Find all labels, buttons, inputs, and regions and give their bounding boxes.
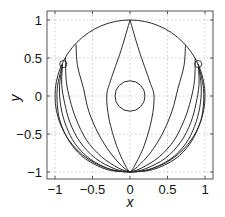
x-axis-label: x xyxy=(126,194,135,210)
y-tick-label: 0.5 xyxy=(24,51,42,66)
y-axis-label: y xyxy=(7,94,23,103)
series-curve-1 xyxy=(107,20,130,172)
x-tick-label: −0.5 xyxy=(80,182,106,197)
y-tick-label: −1 xyxy=(27,165,42,180)
series-curve-2 xyxy=(130,20,154,172)
y-tick-label: 0 xyxy=(35,89,42,104)
y-tick-label: 1 xyxy=(35,13,42,28)
grid xyxy=(47,11,213,179)
x-tick-label: −1 xyxy=(48,182,63,197)
series-curve-7 xyxy=(62,64,130,172)
series-curve-11 xyxy=(57,64,130,172)
series-curve-3 xyxy=(76,44,130,172)
x-tick-label: 0.5 xyxy=(158,182,176,197)
chart: −1−0.500.51−1−0.500.51 x y xyxy=(0,0,225,217)
series-curve-8 xyxy=(130,64,199,172)
y-tick-label: −0.5 xyxy=(16,127,42,142)
x-tick-label: 1 xyxy=(201,182,208,197)
series-curve-10 xyxy=(130,64,201,172)
series-curve-9 xyxy=(59,64,130,172)
